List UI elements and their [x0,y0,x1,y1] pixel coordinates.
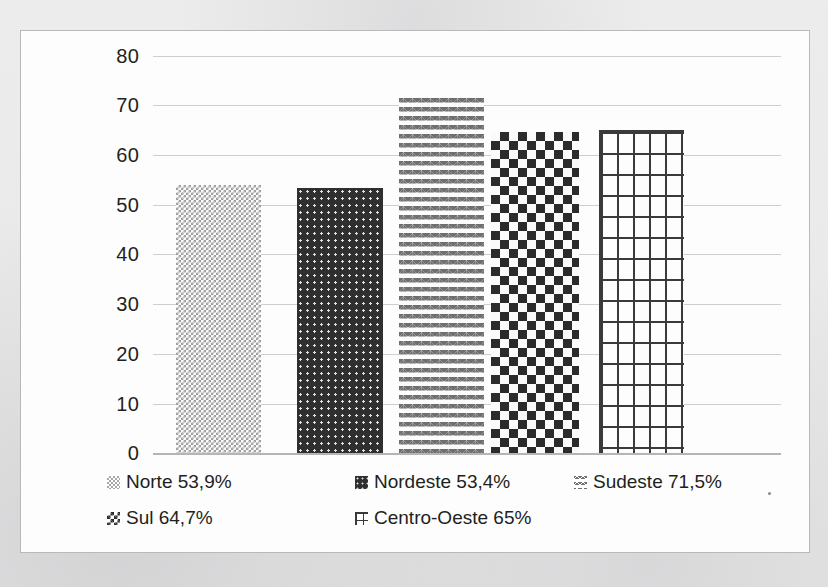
legend-item-norte[interactable]: Norte 53,9% [107,471,232,493]
legend-row-2: Sul 64,7% Centro-Oeste 65% [21,507,811,543]
x-axis-baseline [153,453,781,455]
legend-row-1: Norte 53,9% Nordeste 53,4% Sudeste 71,5% [21,471,811,507]
legend-item-sul[interactable]: Sul 64,7% [107,507,213,529]
legend-swatch-sudeste-icon [574,476,587,489]
legend-swatch-nordeste-icon [355,476,368,489]
bar-sudeste[interactable] [399,98,484,453]
legend-label-sudeste: Sudeste 71,5% [593,471,722,493]
y-axis-tick-label: 80 [21,45,139,68]
y-axis-tick-label: 60 [21,144,139,167]
legend-item-nordeste[interactable]: Nordeste 53,4% [355,471,510,493]
bar-centro-oeste[interactable] [599,130,684,453]
bar-sul[interactable] [491,132,579,453]
bar-nordeste[interactable] [297,188,383,453]
legend-label-centro-oeste: Centro-Oeste 65% [374,507,531,529]
chart-frame: 80 70 60 50 40 30 20 10 0 Norte 53,9% [20,30,810,553]
legend-swatch-sul-icon [107,512,120,525]
legend: Norte 53,9% Nordeste 53,4% Sudeste 71,5%… [21,471,811,543]
gridline-80 [153,56,781,57]
legend-swatch-norte-icon [107,476,120,489]
legend-label-sul: Sul 64,7% [126,507,213,529]
y-axis-tick-label: 40 [21,243,139,266]
y-axis-tick-label: 70 [21,94,139,117]
y-axis-tick-label: 30 [21,293,139,316]
plot-area: 80 70 60 50 40 30 20 10 0 [21,31,811,454]
y-axis-tick-label: 20 [21,343,139,366]
legend-label-norte: Norte 53,9% [126,471,232,493]
legend-item-centro-oeste[interactable]: Centro-Oeste 65% [355,507,531,529]
legend-item-sudeste[interactable]: Sudeste 71,5% [574,471,722,493]
y-axis-tick-label: 0 [21,442,139,465]
legend-label-nordeste: Nordeste 53,4% [374,471,510,493]
y-axis-tick-label: 10 [21,393,139,416]
legend-swatch-centro-oeste-icon [355,512,368,525]
y-axis-tick-label: 50 [21,194,139,217]
bar-norte[interactable] [176,185,261,453]
scan-speck [768,492,771,495]
